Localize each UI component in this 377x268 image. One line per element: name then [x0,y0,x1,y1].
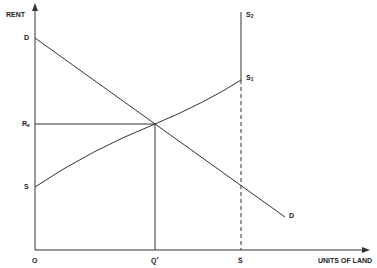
equilibrium-rent-label: Re [22,120,30,128]
supply-demand-diagram [0,0,377,268]
x-axis-label: UNITS OF LAND [318,257,372,264]
y-axis-arrow-icon [32,3,38,11]
supply-2-label: S2 [246,11,253,19]
demand-label-end: D [289,212,294,219]
origin-label: O [32,257,37,264]
y-axis-label: RENT [6,11,25,18]
supply-1-label: S1 [246,74,253,82]
demand-curve [35,38,285,217]
equilibrium-quantity-label: Q* [151,257,158,264]
fixed-supply-label: S̅ [238,257,243,264]
demand-label-start: D [24,34,29,41]
supply-label: S [24,183,29,190]
x-axis-arrow-icon [362,247,370,253]
supply-curve [35,80,241,187]
